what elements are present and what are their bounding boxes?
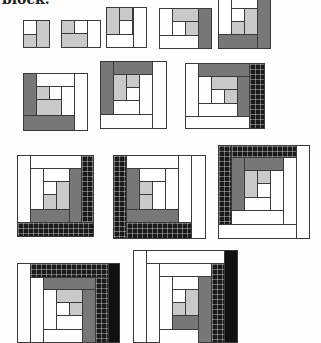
quilt-block-step-7 (100, 61, 167, 129)
quilt-block-step-10 (113, 155, 206, 239)
quilt-block-step-3 (106, 7, 147, 48)
quilt-block-step-12 (17, 263, 120, 343)
quilt-block-step-13 (133, 250, 238, 343)
quilt-block-step-11 (218, 145, 310, 239)
caption-text: block. (2, 0, 50, 7)
quilt-block-step-1 (23, 20, 50, 48)
quilt-block-step-8 (185, 63, 265, 129)
quilt-block-step-5 (218, 0, 271, 49)
quilt-block-step-4 (159, 8, 212, 49)
quilt-block-step-6 (23, 73, 88, 131)
quilt-block-step-2 (61, 20, 101, 48)
quilt-block-step-9 (17, 155, 94, 237)
